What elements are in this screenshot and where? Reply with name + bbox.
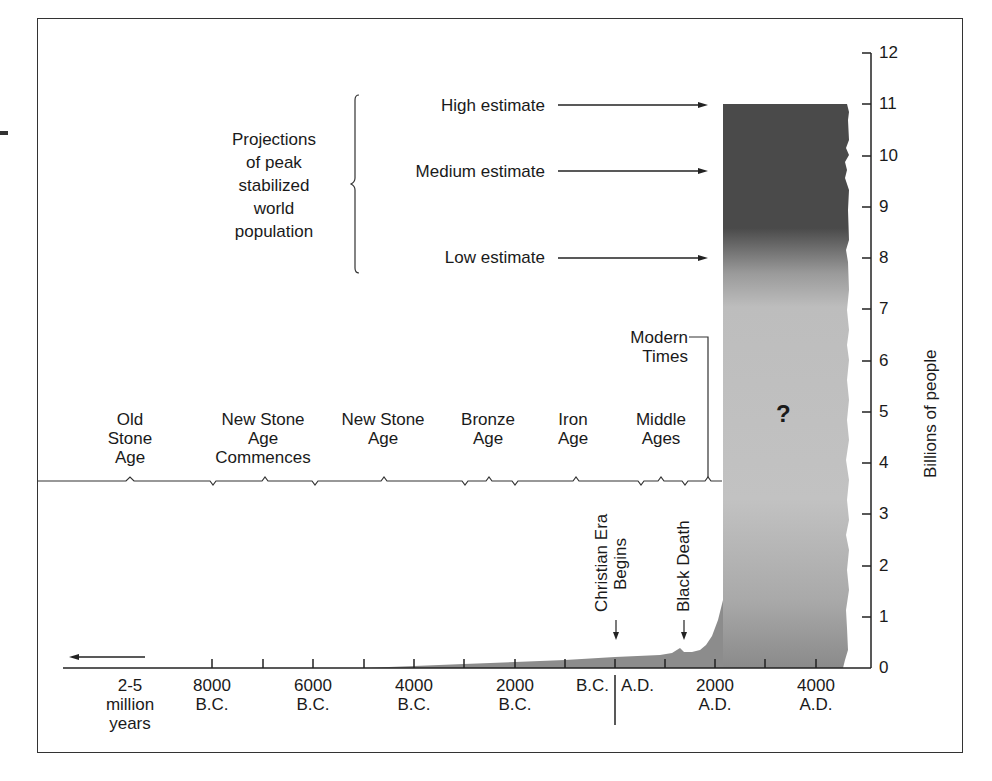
low-arrow-icon: [698, 255, 708, 261]
medium-estimate-label: Medium estimate: [360, 162, 545, 181]
y-tick-0: 0: [879, 658, 888, 677]
y-tick-12: 12: [879, 43, 898, 62]
x-label-ad: A.D.: [621, 676, 665, 695]
projection-title-line: Projections: [212, 128, 336, 151]
x-label-line: 2000: [485, 676, 545, 695]
y-tick-5: 5: [879, 402, 888, 421]
period-line: Stone: [90, 429, 170, 448]
period-line: Ages: [622, 429, 700, 448]
period-line: Age: [448, 429, 528, 448]
high-estimate-label: High estimate: [360, 96, 545, 115]
projection-title-line: of peak: [212, 151, 336, 174]
modern-times-line: Times: [600, 347, 688, 366]
x-label-line: million: [90, 695, 170, 714]
chart-graphics: [0, 0, 992, 781]
x-label-line: 8000: [182, 676, 242, 695]
x-label-line: 2000: [685, 676, 745, 695]
modern-times-label: Modern Times: [600, 328, 688, 366]
y-ticks: [862, 53, 871, 617]
period-old-stone-age: Old Stone Age: [90, 410, 170, 467]
period-new-stone-age-commences: New Stone Age Commences: [200, 410, 326, 467]
y-tick-7: 7: [879, 299, 888, 318]
period-line: Middle: [622, 410, 700, 429]
x-label-line: B.C.: [283, 695, 343, 714]
y-tick-9: 9: [879, 197, 888, 216]
period-new-stone-age: New Stone Age: [328, 410, 438, 448]
christian-era-label-line2: Begins: [611, 538, 630, 590]
period-line: New Stone: [200, 410, 326, 429]
period-middle-ages: Middle Ages: [622, 410, 700, 448]
x-label-4000-bc: 4000 B.C.: [384, 676, 444, 714]
y-tick-6: 6: [879, 351, 888, 370]
x-label-line: B.C.: [485, 695, 545, 714]
y-tick-10: 10: [879, 146, 898, 165]
estimate-arrows: [558, 105, 700, 258]
y-tick-4: 4: [879, 453, 888, 472]
period-line: Age: [543, 429, 603, 448]
x-label-line: 2-5: [90, 676, 170, 695]
projection-title: Projections of peak stabilized world pop…: [212, 128, 336, 243]
x-label-line: B.C.: [384, 695, 444, 714]
x-label-line: 4000: [786, 676, 846, 695]
y-tick-3: 3: [879, 504, 888, 523]
y-tick-2: 2: [879, 556, 888, 575]
x-label-6000-bc: 6000 B.C.: [283, 676, 343, 714]
unknown-future-marker: ?: [776, 400, 791, 428]
period-bronze-age: Bronze Age: [448, 410, 528, 448]
period-line: Bronze: [448, 410, 528, 429]
projection-column: [723, 104, 849, 668]
black-death-label: Black Death: [674, 520, 693, 612]
projection-title-line: world: [212, 197, 336, 220]
x-label-2000-bc: 2000 B.C.: [485, 676, 545, 714]
x-label-line: A.D.: [685, 695, 745, 714]
x-label-line: years: [90, 714, 170, 733]
x-label-line: 4000: [384, 676, 444, 695]
x-label-8000-bc: 8000 B.C.: [182, 676, 242, 714]
black-death-arrow-icon: [681, 632, 687, 640]
modern-times-line: Modern: [600, 328, 688, 347]
projection-title-line: stabilized: [212, 174, 336, 197]
y-axis-title: Billions of people: [921, 349, 940, 478]
x-label-bc: B.C.: [560, 676, 609, 695]
low-estimate-label: Low estimate: [360, 248, 545, 267]
period-line: Age: [90, 448, 170, 467]
x-label-line: 6000: [283, 676, 343, 695]
medium-arrow-icon: [698, 168, 708, 174]
christian-era-arrow-icon: [613, 632, 619, 640]
period-line: Age: [200, 429, 326, 448]
period-iron-age: Iron Age: [543, 410, 603, 448]
x-label-2000-ad: 2000 A.D.: [685, 676, 745, 714]
period-line: Old: [90, 410, 170, 429]
period-line: Commences: [200, 448, 326, 467]
period-line: New Stone: [328, 410, 438, 429]
y-tick-8: 8: [879, 248, 888, 267]
x-label-line: A.D.: [786, 695, 846, 714]
x-label-million-years: 2-5 million years: [90, 676, 170, 733]
high-arrow-icon: [698, 102, 708, 108]
y-tick-1: 1: [879, 607, 888, 626]
x-label-4000-ad: 4000 A.D.: [786, 676, 846, 714]
projection-title-line: population: [212, 220, 336, 243]
y-tick-11: 11: [879, 94, 897, 113]
period-line: Age: [328, 429, 438, 448]
christian-era-label-line1: Christian Era: [592, 514, 611, 612]
x-label-line: B.C.: [182, 695, 242, 714]
period-line: Iron: [543, 410, 603, 429]
projection-brace: [351, 95, 359, 273]
population-area: [364, 600, 723, 668]
